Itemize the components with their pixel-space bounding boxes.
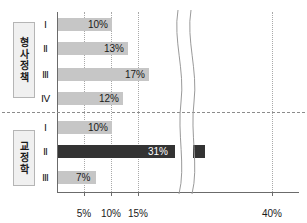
- category-label: Ⅰ: [37, 121, 53, 134]
- bar-value-label: 7%: [76, 171, 90, 184]
- group-label-char: 정: [20, 152, 29, 164]
- gridline-40: [272, 12, 273, 192]
- value-axis-line: [57, 192, 299, 193]
- bar-chart: 형 사 정 책 교 정 학 5% 10% 15% 40% Ⅰ 10% Ⅱ: [0, 0, 307, 223]
- bar-value-label: 17%: [125, 68, 145, 81]
- tick-10: [111, 192, 112, 196]
- tick-15: [138, 192, 139, 196]
- plot-area: 5% 10% 15% 40% Ⅰ 10% Ⅱ 13% Ⅲ 17% Ⅳ 12% Ⅰ…: [57, 12, 299, 192]
- tick-label-10: 10%: [101, 208, 121, 219]
- group-label-char: 학: [20, 164, 29, 176]
- category-label: Ⅲ: [37, 171, 53, 184]
- group-label-char: 책: [20, 72, 29, 84]
- group-divider: [2, 112, 305, 113]
- group-label-char: 사: [20, 49, 29, 61]
- tick-label-40: 40%: [262, 208, 282, 219]
- category-label: Ⅳ: [37, 92, 53, 105]
- group-label-char: 교: [20, 141, 29, 153]
- bar-value-label: 31%: [148, 145, 168, 158]
- category-label: Ⅱ: [37, 145, 53, 158]
- group-label-correctional-studies: 교 정 학: [13, 130, 35, 186]
- tick-5: [84, 192, 85, 196]
- group-label-char: 정: [20, 60, 29, 72]
- category-label: Ⅱ: [37, 42, 53, 55]
- bar-value-label: 10%: [88, 18, 108, 31]
- category-label: Ⅰ: [37, 18, 53, 31]
- gridline-15: [138, 12, 139, 192]
- bar-value-label: 13%: [104, 42, 124, 55]
- group-label-char: 형: [20, 37, 29, 49]
- bar-value-label: 10%: [88, 121, 108, 134]
- category-label: Ⅲ: [37, 68, 53, 81]
- bar-correctional-studies-2-continuation: [193, 145, 205, 158]
- tick-40: [272, 192, 273, 196]
- group-label-criminal-policy: 형 사 정 책: [13, 22, 35, 98]
- bar-value-label: 12%: [99, 92, 119, 105]
- tick-label-5: 5%: [77, 208, 91, 219]
- tick-label-15: 15%: [128, 208, 148, 219]
